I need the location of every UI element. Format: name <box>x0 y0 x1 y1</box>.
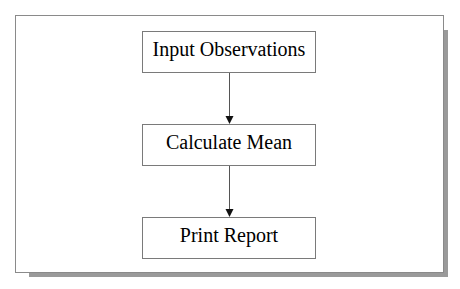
flow-node-input-observations: Input Observations <box>142 31 316 73</box>
flow-node-print-report: Print Report <box>142 217 316 259</box>
flow-node-label: Calculate Mean <box>166 132 292 165</box>
flow-node-label: Input Observations <box>153 39 306 72</box>
flow-node-label: Print Report <box>180 225 278 258</box>
flow-node-calculate-mean: Calculate Mean <box>142 124 316 166</box>
